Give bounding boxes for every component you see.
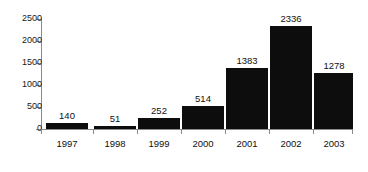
- x-tick-mark: [41, 129, 42, 134]
- x-axis-label-1997: 1997: [46, 138, 88, 149]
- bar-value-2000: 514: [182, 94, 224, 104]
- x-axis-label-1999: 1999: [138, 138, 180, 149]
- y-tick-label-2000: 2000: [10, 36, 42, 45]
- bar-value-1997: 140: [46, 111, 88, 121]
- x-tick-mark: [93, 129, 94, 134]
- y-tick-2000: 2000: [0, 41, 42, 42]
- y-tick-label-500: 500: [10, 102, 42, 111]
- x-axis-label-2003: 2003: [313, 138, 355, 149]
- bar-2000: [182, 106, 224, 129]
- bar-value-2003: 1278: [313, 61, 355, 71]
- x-tick-mark: [225, 129, 226, 134]
- bar-1997: [46, 123, 88, 129]
- bar-2001: [226, 68, 268, 129]
- y-tick-label-2500: 2500: [10, 14, 42, 23]
- bar-1998: [94, 126, 136, 129]
- y-tick-label-1500: 1500: [10, 58, 42, 67]
- y-tick-2500: 2500: [0, 19, 42, 20]
- bar-2003: [314, 73, 353, 129]
- y-tick-1000: 1000: [0, 85, 42, 86]
- x-tick-mark: [269, 129, 270, 134]
- x-axis-label-2001: 2001: [226, 138, 268, 149]
- bar-value-2001: 1383: [226, 56, 268, 66]
- bar-value-1999: 252: [138, 106, 180, 116]
- bar-1999: [138, 118, 180, 129]
- y-tick-500: 500: [0, 107, 42, 108]
- y-tick-1500: 1500: [0, 63, 42, 64]
- x-axis-line: [41, 129, 353, 130]
- x-axis-label-2000: 2000: [182, 138, 224, 149]
- bar-value-2002: 2336: [270, 14, 312, 24]
- y-tick-label-1000: 1000: [10, 80, 42, 89]
- x-tick-mark: [352, 129, 353, 134]
- y-tick-label-0: 0: [10, 124, 42, 133]
- x-tick-mark: [313, 129, 314, 134]
- bar-value-1998: 51: [94, 114, 136, 124]
- bar-2002: [270, 26, 312, 129]
- y-tick-0: 0: [0, 129, 42, 130]
- bar-chart: 2500 2000 1500 1000 500 0 140 51 252 514…: [0, 0, 368, 172]
- x-tick-mark: [137, 129, 138, 134]
- x-axis-label-2002: 2002: [270, 138, 312, 149]
- x-tick-mark: [181, 129, 182, 134]
- x-axis-label-1998: 1998: [94, 138, 136, 149]
